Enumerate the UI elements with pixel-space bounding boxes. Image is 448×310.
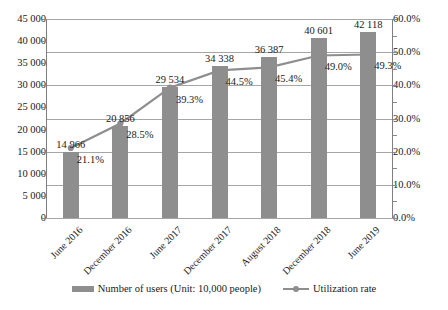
bar-value-label: 20 856 [106,113,135,124]
category-label: June 2019 [345,224,382,261]
right-axis-tick-label: 40.0% [393,79,420,90]
legend-item-utilization-rate[interactable]: Utilization rate [283,283,376,294]
line-swatch-icon [283,285,309,293]
right-axis-tick-label: 20.0% [393,146,420,157]
right-axis-tick [393,185,397,186]
bar-swatch-icon [72,286,94,292]
bar-value-label: 40 601 [304,25,333,36]
right-axis-tick-label: 50.0% [393,46,420,57]
right-axis-tick [393,201,397,202]
bar-value-label: 29 534 [155,74,184,85]
gridline [46,218,393,219]
left-axis-tick [42,218,46,219]
line-value-label: 45.4% [275,73,302,84]
line-marker[interactable] [216,67,222,73]
bar-value-label: 42 118 [354,19,383,30]
line-series [46,19,393,218]
line-marker[interactable] [316,52,322,58]
line-marker[interactable] [365,51,371,57]
right-axis-tick-label: 60.0% [393,13,420,24]
right-axis-tick [393,119,397,120]
bar-value-label: 34 338 [205,53,234,64]
category-label: August 2018 [239,224,283,268]
right-axis-tick [393,135,397,136]
line-value-label: 39.3% [176,94,203,105]
bar-value-label: 36 387 [255,44,284,55]
line-marker[interactable] [167,85,173,91]
line-value-label: 21.1% [77,154,104,165]
category-label: December 2016 [81,224,134,277]
line-value-label: 49.0% [325,61,352,72]
right-axis-tick [393,52,397,53]
right-axis-tick [393,102,397,103]
right-axis-tick-label: 30.0% [393,113,420,124]
right-axis-tick [393,19,397,20]
bar-value-label: 14 966 [56,139,85,150]
line-value-label: 49.3% [374,60,401,71]
right-axis-tick [393,218,397,219]
right-axis-tick-label: 10.0% [393,179,420,190]
line-value-label: 44.5% [226,76,253,87]
legend-label-number-of-users: Number of users (Unit: 10,000 people) [98,283,261,294]
category-label: December 2018 [280,224,333,277]
line-marker[interactable] [266,64,272,70]
chart-container: 05 00010 00015 00020 00025 00030 00035 0… [0,0,448,310]
right-axis-tick [393,85,397,86]
category-label: June 2017 [147,224,184,261]
line-value-label: 28.5% [126,129,153,140]
legend-label-utilization-rate: Utilization rate [313,283,376,294]
plot-area: 14 96620 85629 53434 33836 38740 60142 1… [46,19,393,218]
right-axis-tick [393,36,397,37]
category-label: June 2016 [48,224,85,261]
category-label: December 2017 [181,224,234,277]
right-axis-tick [393,168,397,169]
chart-legend: Number of users (Unit: 10,000 people) Ut… [0,283,448,294]
right-axis-tick [393,152,397,153]
legend-item-number-of-users[interactable]: Number of users (Unit: 10,000 people) [72,283,261,294]
